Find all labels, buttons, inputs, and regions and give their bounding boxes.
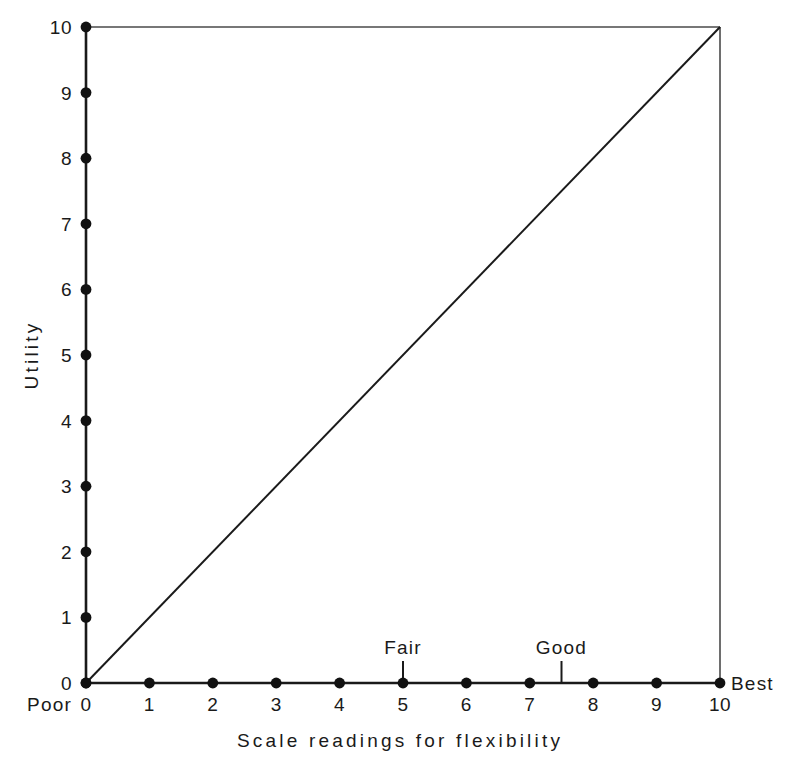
y-marker-0 — [81, 678, 92, 689]
y-tick-label-4: 4 — [61, 411, 72, 432]
x-tick-label-4: 4 — [334, 694, 345, 715]
x-tick-label-2: 2 — [207, 694, 218, 715]
y-tick-label-6: 6 — [61, 279, 72, 300]
y-marker-8 — [81, 153, 92, 164]
x-marker-8 — [588, 678, 599, 689]
x-marker-4 — [334, 678, 345, 689]
x-marker-7 — [524, 678, 535, 689]
y-marker-3 — [81, 481, 92, 492]
x-marker-5 — [398, 678, 409, 689]
y-marker-4 — [81, 415, 92, 426]
y-tick-label-2: 2 — [61, 542, 72, 563]
y-tick-label-10: 10 — [50, 17, 72, 38]
y-tick-label-8: 8 — [61, 148, 72, 169]
y-axis-title: Utility — [21, 321, 42, 390]
x-marker-6 — [461, 678, 472, 689]
y-marker-10 — [81, 22, 92, 33]
y-marker-7 — [81, 218, 92, 229]
y-tick-label-0: 0 — [61, 673, 72, 694]
y-marker-9 — [81, 87, 92, 98]
x-marker-1 — [144, 678, 155, 689]
x-axis-tick-labels: 0 1 2 3 4 5 6 7 8 9 10 — [80, 694, 731, 715]
y-tick-label-5: 5 — [61, 345, 72, 366]
y-tick-label-9: 9 — [61, 83, 72, 104]
x-marker-2 — [207, 678, 218, 689]
x-tick-label-0: 0 — [80, 694, 91, 715]
anchor-label-poor: Poor — [27, 694, 72, 715]
y-marker-5 — [81, 350, 92, 361]
y-marker-2 — [81, 546, 92, 557]
utility-line-series — [86, 27, 720, 683]
y-tick-label-3: 3 — [61, 476, 72, 497]
anchor-label-fair: Fair — [384, 637, 422, 658]
x-marker-3 — [271, 678, 282, 689]
x-tick-label-9: 9 — [651, 694, 662, 715]
y-tick-label-7: 7 — [61, 214, 72, 235]
anchor-label-good: Good — [536, 637, 587, 658]
y-axis-tick-labels: 0 1 2 3 4 5 6 7 8 9 10 — [50, 17, 72, 694]
x-axis-title: Scale readings for flexibility — [237, 730, 563, 751]
x-tick-label-1: 1 — [144, 694, 155, 715]
y-marker-1 — [81, 612, 92, 623]
x-marker-10 — [715, 678, 726, 689]
x-tick-label-8: 8 — [588, 694, 599, 715]
y-marker-6 — [81, 284, 92, 295]
x-tick-label-7: 7 — [524, 694, 535, 715]
chart-canvas: 0 1 2 3 4 5 6 7 8 9 10 0 1 2 3 4 5 6 7 8… — [0, 0, 786, 763]
utility-curve-figure: 0 1 2 3 4 5 6 7 8 9 10 0 1 2 3 4 5 6 7 8… — [0, 0, 786, 763]
x-marker-9 — [651, 678, 662, 689]
x-tick-label-3: 3 — [271, 694, 282, 715]
anchor-label-best: Best — [731, 673, 774, 694]
y-tick-label-1: 1 — [61, 607, 72, 628]
x-tick-label-10: 10 — [709, 694, 731, 715]
x-tick-label-5: 5 — [397, 694, 408, 715]
x-tick-label-6: 6 — [461, 694, 472, 715]
